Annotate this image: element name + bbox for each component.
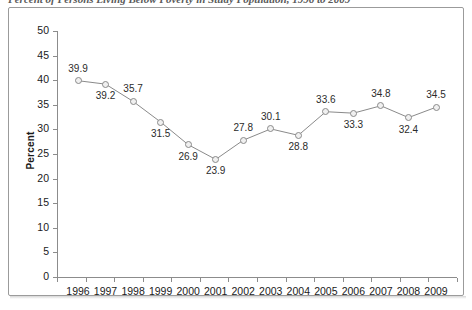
x-axis-tick xyxy=(114,278,115,282)
x-axis-tick xyxy=(343,278,344,282)
x-axis-tick xyxy=(143,278,144,282)
y-axis-tick-label: 35 xyxy=(9,98,49,110)
data-point-label: 31.5 xyxy=(141,128,181,139)
data-point-label: 35.7 xyxy=(113,83,153,94)
y-axis-tick-label: 0 xyxy=(9,270,49,282)
data-point-marker xyxy=(75,77,82,84)
plot-area: 05101520253035404550 1996199719981999200… xyxy=(57,31,457,278)
data-point-label: 23.9 xyxy=(196,165,236,176)
x-axis-tick xyxy=(428,278,429,282)
chart-frame: Percent 05101520253035404550 19961997199… xyxy=(8,7,464,296)
y-axis-tick-label: 5 xyxy=(9,245,49,257)
x-axis-tick xyxy=(286,278,287,282)
data-point-marker xyxy=(185,141,192,148)
data-point-label: 34.5 xyxy=(416,89,456,100)
data-point-marker xyxy=(433,104,440,111)
series-line xyxy=(57,31,457,278)
data-point-label: 34.8 xyxy=(361,88,401,99)
x-axis-tick xyxy=(200,278,201,282)
data-point-label: 33.3 xyxy=(333,119,373,130)
y-axis-tick-label: 10 xyxy=(9,221,49,233)
page-title: Percent of Persons Living Below Poverty … xyxy=(8,0,350,5)
x-axis-tick xyxy=(400,278,401,282)
data-point-marker xyxy=(240,137,247,144)
data-point-label: 27.8 xyxy=(223,122,263,133)
x-axis-tick xyxy=(171,278,172,282)
y-axis-tick-label: 45 xyxy=(9,49,49,61)
data-point-marker xyxy=(295,132,302,139)
data-point-label: 28.8 xyxy=(278,141,318,152)
y-axis-tick-label: 15 xyxy=(9,196,49,208)
frame-shadow xyxy=(10,296,466,299)
data-point-marker xyxy=(102,81,109,88)
data-point-marker xyxy=(130,98,137,105)
x-axis-tick xyxy=(86,278,87,282)
data-point-marker xyxy=(405,114,412,121)
x-axis-tick xyxy=(457,278,458,282)
chart-title-strip: Percent of Persons Living Below Poverty … xyxy=(0,0,472,7)
data-point-label: 30.1 xyxy=(251,111,291,122)
data-point-label: 32.4 xyxy=(388,124,428,135)
x-axis-tick xyxy=(314,278,315,282)
x-axis-tick xyxy=(371,278,372,282)
x-axis-tick xyxy=(228,278,229,282)
data-point-label: 33.6 xyxy=(306,94,346,105)
y-axis-tick-label: 40 xyxy=(9,73,49,85)
data-point-marker xyxy=(157,119,164,126)
x-axis-tick xyxy=(57,278,58,282)
y-axis-tick-label: 50 xyxy=(9,24,49,36)
data-point-label: 26.9 xyxy=(168,151,208,162)
y-axis-tick-label: 30 xyxy=(9,122,49,134)
data-point-label: 39.9 xyxy=(58,63,98,74)
y-axis-tick-label: 25 xyxy=(9,147,49,159)
y-axis-tick-label: 20 xyxy=(9,172,49,184)
data-point-marker xyxy=(350,110,357,117)
x-axis-tick xyxy=(257,278,258,282)
